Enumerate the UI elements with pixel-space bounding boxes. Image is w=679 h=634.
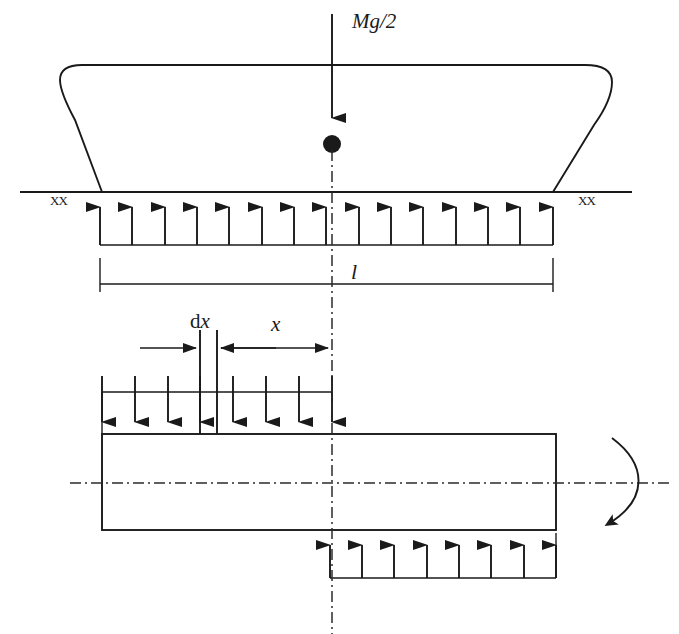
lower-diagram: dx x bbox=[70, 309, 672, 578]
beam-rectangle bbox=[102, 434, 556, 530]
bottom-load-arrow-array bbox=[330, 545, 556, 578]
support-hatch-left-label: XX bbox=[50, 193, 68, 208]
span-length-label: l bbox=[351, 259, 357, 284]
dx-label: dx bbox=[190, 309, 211, 333]
rotation-arrow bbox=[608, 438, 639, 524]
applied-load-group bbox=[323, 14, 341, 153]
reaction-arrow-array bbox=[100, 207, 553, 245]
span-dimension: l bbox=[100, 258, 553, 292]
dx-label-var: x bbox=[200, 309, 211, 333]
diagram-canvas: XX XX bbox=[0, 0, 679, 634]
support-hatch-right-label: XX bbox=[578, 193, 596, 208]
upper-diagram: XX XX bbox=[20, 14, 632, 292]
body-outline bbox=[60, 65, 612, 192]
x-distance-label: x bbox=[270, 312, 281, 336]
applied-load-label: Mg/2 bbox=[351, 9, 397, 33]
engineering-diagram-figure: XX XX bbox=[0, 0, 679, 634]
dx-label-prefix: d bbox=[190, 309, 201, 333]
